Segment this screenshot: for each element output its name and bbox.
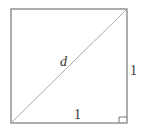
right-side-label: 1 bbox=[130, 63, 137, 78]
right-angle-marker bbox=[119, 117, 127, 123]
diagram: d 1 1 bbox=[0, 0, 145, 133]
bottom-side-label: 1 bbox=[74, 107, 81, 122]
diagonal-label: d bbox=[60, 54, 68, 69]
diagonal-line bbox=[11, 9, 127, 123]
